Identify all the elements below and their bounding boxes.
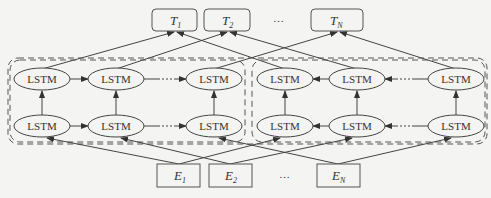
lstm-cell-label: LSTM bbox=[342, 73, 372, 85]
output-connections bbox=[42, 32, 456, 69]
lstm-cell-label: LSTM bbox=[101, 120, 131, 132]
lstm-cell-label: LSTM bbox=[27, 73, 57, 85]
bilstm-diagram: T1 T2 … TN bbox=[0, 0, 491, 198]
lstm-cell-label: LSTM bbox=[342, 120, 372, 132]
lstm-cells bbox=[14, 68, 484, 137]
lstm-cell-label: LSTM bbox=[199, 120, 229, 132]
input-ellipsis: … bbox=[279, 168, 290, 180]
vertical-connections bbox=[42, 91, 456, 116]
output-box-tn: TN bbox=[311, 9, 363, 31]
lstm-cell-label: LSTM bbox=[270, 120, 300, 132]
output-box-t2: T2 bbox=[204, 9, 250, 31]
lstm-cell-label: LSTM bbox=[199, 73, 229, 85]
output-ellipsis: … bbox=[273, 12, 284, 24]
lstm-cell-label: LSTM bbox=[441, 73, 471, 85]
outer-dashed-box bbox=[8, 58, 487, 144]
input-box-e1: E1 bbox=[157, 164, 200, 187]
lstm-cell-label: LSTM bbox=[270, 73, 300, 85]
input-box-en: EN bbox=[317, 164, 360, 187]
lstm-cell-label: LSTM bbox=[101, 73, 131, 85]
lstm-cell-label: LSTM bbox=[441, 120, 471, 132]
lstm-cell-label: LSTM bbox=[27, 120, 57, 132]
input-box-e2: E2 bbox=[209, 164, 252, 187]
output-box-t1: T1 bbox=[152, 9, 197, 31]
